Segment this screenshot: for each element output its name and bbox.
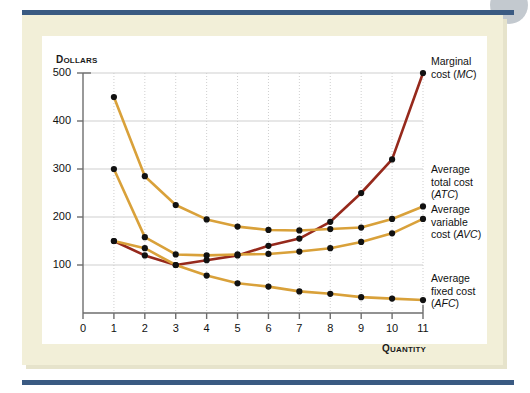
y-tick-label: 200 bbox=[41, 210, 71, 222]
data-point-atc bbox=[327, 226, 333, 232]
axis-ticks bbox=[77, 73, 423, 319]
data-point-atc bbox=[296, 227, 302, 233]
data-point-afc bbox=[265, 284, 271, 290]
atc-label-line1: Average bbox=[431, 163, 470, 175]
data-point-atc bbox=[111, 94, 117, 100]
x-tick-label: 11 bbox=[413, 322, 433, 334]
y-axis-title: DOLLARS bbox=[56, 49, 98, 67]
data-point-atc bbox=[389, 216, 395, 222]
afc-label-line1: Average bbox=[431, 272, 470, 284]
data-point-mc bbox=[296, 236, 302, 242]
data-point-atc bbox=[234, 224, 240, 230]
x-axis-title: QUANTITY bbox=[382, 338, 426, 356]
x-tick-label: 3 bbox=[166, 322, 186, 334]
y-axis-title-rest: OLLARS bbox=[63, 56, 97, 65]
x-tick-label: 7 bbox=[289, 322, 309, 334]
data-point-avc bbox=[327, 245, 333, 251]
data-point-avc bbox=[204, 252, 210, 258]
data-point-mc bbox=[265, 243, 271, 249]
x-tick-label: 0 bbox=[73, 322, 93, 334]
series-line-afc bbox=[114, 241, 423, 300]
data-point-afc bbox=[142, 245, 148, 251]
data-point-avc bbox=[142, 234, 148, 240]
data-point-atc bbox=[358, 224, 364, 230]
data-point-atc bbox=[420, 203, 426, 209]
data-point-avc bbox=[173, 251, 179, 257]
x-tick-label: 2 bbox=[135, 322, 155, 334]
y-tick-label: 500 bbox=[41, 66, 71, 78]
curve-label-average-total-cost: Average total cost (ATC) bbox=[431, 163, 473, 201]
data-point-mc bbox=[358, 190, 364, 196]
data-point-atc bbox=[142, 173, 148, 179]
y-tick-label: 100 bbox=[41, 258, 71, 270]
mc-label-line2-post: ) bbox=[473, 68, 477, 80]
afc-label-line3-post: ) bbox=[456, 297, 460, 309]
x-tick-label: 5 bbox=[228, 322, 248, 334]
y-tick-label: 400 bbox=[41, 114, 71, 126]
data-point-avc bbox=[420, 216, 426, 222]
gridlines bbox=[83, 73, 423, 313]
data-point-atc bbox=[265, 227, 271, 233]
figure-root: DOLLARS QUANTITY 10020030040050001234567… bbox=[0, 0, 530, 393]
afc-label-abbrev: AFC bbox=[435, 297, 456, 309]
avc-label-line1: Average bbox=[431, 203, 470, 215]
data-point-avc bbox=[358, 239, 364, 245]
data-point-afc bbox=[173, 262, 179, 268]
axes bbox=[83, 73, 423, 313]
data-point-avc bbox=[111, 166, 117, 172]
data-point-atc bbox=[173, 202, 179, 208]
curve-label-marginal-cost: Marginal cost (MC) bbox=[431, 55, 477, 80]
data-point-atc bbox=[204, 216, 210, 222]
x-tick-label: 10 bbox=[382, 322, 402, 334]
data-point-mc bbox=[389, 156, 395, 162]
x-tick-label: 6 bbox=[258, 322, 278, 334]
data-point-mc bbox=[142, 252, 148, 258]
x-tick-label: 4 bbox=[197, 322, 217, 334]
curve-label-average-variable-cost: Average variable cost (AVC) bbox=[431, 203, 481, 241]
data-point-afc bbox=[389, 296, 395, 302]
data-point-avc bbox=[234, 251, 240, 257]
atc-label-line2: total cost bbox=[431, 176, 473, 188]
data-point-afc bbox=[327, 291, 333, 297]
atc-label-abbrev: ATC bbox=[435, 188, 455, 200]
data-point-afc bbox=[111, 238, 117, 244]
data-point-avc bbox=[389, 230, 395, 236]
data-point-mc bbox=[420, 70, 426, 76]
mc-label-abbrev: MC bbox=[457, 68, 473, 80]
data-point-afc bbox=[296, 288, 302, 294]
data-point-afc bbox=[204, 272, 210, 278]
data-point-avc bbox=[265, 251, 271, 257]
x-tick-label: 1 bbox=[104, 322, 124, 334]
mc-label-line1: Marginal bbox=[431, 55, 471, 67]
avc-label-line2: variable bbox=[431, 216, 468, 228]
data-point-afc bbox=[420, 297, 426, 303]
data-point-avc bbox=[296, 248, 302, 254]
afc-label-line2: fixed cost bbox=[431, 285, 475, 297]
avc-label-line3-pre: cost ( bbox=[431, 228, 457, 240]
mc-label-line2-pre: cost ( bbox=[431, 68, 457, 80]
avc-label-abbrev: AVC bbox=[457, 228, 478, 240]
x-tick-label: 8 bbox=[320, 322, 340, 334]
x-axis-title-initial: Q bbox=[382, 343, 390, 354]
avc-label-line3-post: ) bbox=[478, 228, 482, 240]
data-point-afc bbox=[234, 280, 240, 286]
x-axis-title-rest: UANTITY bbox=[390, 345, 426, 354]
x-tick-label: 9 bbox=[351, 322, 371, 334]
data-point-mc bbox=[327, 219, 333, 225]
curve-label-average-fixed-cost: Average fixed cost (AFC) bbox=[431, 272, 475, 310]
data-point-afc bbox=[358, 294, 364, 300]
y-tick-label: 300 bbox=[41, 162, 71, 174]
atc-label-line3-post: ) bbox=[455, 188, 459, 200]
